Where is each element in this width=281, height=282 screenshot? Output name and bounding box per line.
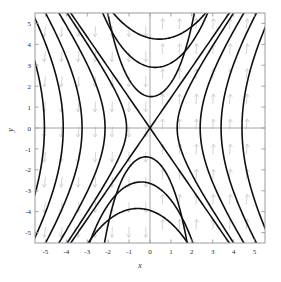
x-tick-label: 0 xyxy=(148,248,152,256)
x-tick-label: -1 xyxy=(126,248,132,256)
x-tick-label: 1 xyxy=(169,248,173,256)
y-tick-label: 4 xyxy=(28,41,32,49)
y-tick-label: -1 xyxy=(25,146,31,154)
y-tick-label: -4 xyxy=(25,208,31,216)
x-tick-label: -2 xyxy=(105,248,111,256)
y-tick-label: -5 xyxy=(25,229,31,237)
y-tick-label: 1 xyxy=(28,104,32,112)
phase-portrait-figure: -5-4-3-2-1012345-5-4-3-2-1012345 x y xyxy=(0,0,281,282)
y-axis-label: y xyxy=(6,128,15,133)
y-tick-label: 2 xyxy=(28,83,32,91)
y-tick-label: 3 xyxy=(28,62,32,70)
y-tick-label: 0 xyxy=(28,125,32,133)
vector-arrow-shaft xyxy=(196,219,197,229)
x-tick-label: -5 xyxy=(43,248,49,256)
vector-arrow-shaft xyxy=(196,44,197,54)
vector-arrow-shaft xyxy=(196,169,197,179)
x-axis-label: x xyxy=(137,261,142,270)
x-tick-label: -3 xyxy=(84,248,90,256)
x-tick-label: 5 xyxy=(253,248,257,256)
vector-arrow-shaft xyxy=(196,94,197,104)
plot-canvas: -5-4-3-2-1012345-5-4-3-2-1012345 x y xyxy=(0,0,281,282)
y-tick-label: -2 xyxy=(25,166,31,174)
x-tick-label: 3 xyxy=(211,248,215,256)
vector-arrow-shaft xyxy=(196,144,197,154)
y-tick-label: -3 xyxy=(25,187,31,195)
x-tick-label: 2 xyxy=(190,248,194,256)
y-tick-label: 5 xyxy=(28,20,32,28)
x-tick-label: 4 xyxy=(232,248,236,256)
x-tick-label: -4 xyxy=(63,248,69,256)
